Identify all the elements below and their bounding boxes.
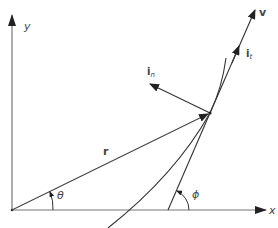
theta-label: θ: [57, 189, 64, 202]
velocity-vector-label: v: [259, 6, 267, 19]
phi-angle: ϕ: [177, 188, 199, 210]
x-axis-label: x: [268, 204, 276, 217]
normal-unit-label: in: [147, 66, 155, 79]
y-axis-label: y: [23, 20, 31, 33]
tangent-unit-label: it: [246, 48, 252, 61]
trajectory-curve: [108, 58, 226, 228]
position-vector: r: [12, 114, 208, 210]
normal-unit-subscript: n: [150, 71, 154, 79]
phi-label: ϕ: [192, 188, 199, 201]
tangent-line: [168, 113, 210, 210]
normal-unit-vector: in: [147, 66, 210, 113]
velocity-vector: v: [210, 6, 267, 113]
theta-angle: θ: [50, 189, 64, 210]
axes: y x: [11, 15, 276, 217]
tangent-unit-subscript: t: [249, 53, 252, 61]
vector-diagram: y x r v it in θ ϕ: [0, 0, 278, 228]
tangent-unit-vector: it: [232, 46, 252, 63]
particle-point: [208, 111, 211, 114]
position-vector-label: r: [103, 145, 109, 158]
